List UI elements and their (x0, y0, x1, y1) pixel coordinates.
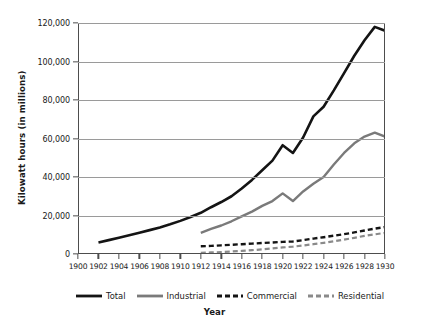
legend-item-residential[interactable]: Residential (308, 291, 384, 301)
y-axis-tick-mark (73, 99, 78, 100)
x-axis-tick-mark (159, 254, 160, 259)
x-axis-tick-label: 1928 (355, 262, 374, 271)
x-axis-tick-mark (221, 254, 222, 259)
y-axis-tick-label: 80,000 (20, 96, 70, 105)
x-axis-tick-label: 1914 (212, 262, 231, 271)
legend-label: Commercial (247, 291, 297, 301)
x-axis-tick-label: 1920 (273, 262, 292, 271)
x-axis-tick-label: 1922 (294, 262, 313, 271)
x-axis-tick-label: 1918 (253, 262, 272, 271)
x-axis-tick-mark (343, 254, 344, 259)
gridline (78, 62, 385, 63)
x-axis-tick-label: 1930 (376, 262, 395, 271)
x-axis-tick-mark (98, 254, 99, 259)
x-axis-tick-label: 1906 (130, 262, 149, 271)
x-axis-tick-mark (241, 254, 242, 259)
x-axis-tick-label: 1900 (69, 262, 88, 271)
gridline (78, 23, 385, 24)
x-axis-tick-label: 1902 (89, 262, 108, 271)
gridline (78, 139, 385, 140)
x-axis-tick-mark (118, 254, 119, 259)
y-axis-tick-mark (73, 176, 78, 177)
x-axis-tick-mark (282, 254, 283, 259)
x-axis-tick-label: 1912 (192, 262, 211, 271)
legend-label: Industrial (167, 291, 206, 301)
y-axis-tick-label: 100,000 (20, 57, 70, 66)
x-axis-tick-mark (323, 254, 324, 259)
x-axis-tick-label: 1924 (314, 262, 333, 271)
legend-label: Residential (338, 291, 384, 301)
x-axis-tick-mark (384, 254, 385, 259)
x-axis-tick-mark (262, 254, 263, 259)
x-axis-tick-mark (200, 254, 201, 259)
gridline (78, 177, 385, 178)
x-axis-title: Year (0, 307, 429, 317)
y-axis-tick-mark (73, 22, 78, 23)
legend-swatch-residential-icon (308, 291, 334, 301)
x-axis-tick-mark (364, 254, 365, 259)
gridline (78, 216, 385, 217)
x-axis-tick-label: 1916 (232, 262, 251, 271)
x-axis-tick-label: 1926 (335, 262, 354, 271)
legend-label: Total (106, 291, 126, 301)
x-axis-tick-label: 1910 (171, 262, 190, 271)
y-axis-tick-label: 0 (20, 250, 70, 259)
x-axis-tick-mark (180, 254, 181, 259)
x-axis-tick-label: 1904 (110, 262, 129, 271)
legend-swatch-industrial-icon (137, 291, 163, 301)
chart-legend: TotalIndustrialCommercialResidential (60, 288, 400, 304)
legend-swatch-commercial-icon (217, 291, 243, 301)
legend-swatch-total-icon (76, 291, 102, 301)
plot-area (78, 23, 385, 254)
gridline (78, 100, 385, 101)
x-axis-tick-mark (77, 254, 78, 259)
line-chart-figure: Kilowatt hours (in millions) 020,00040,0… (0, 0, 429, 333)
legend-item-total[interactable]: Total (76, 291, 126, 301)
y-axis-tick-mark (73, 61, 78, 62)
y-axis-tick-mark (73, 215, 78, 216)
legend-item-industrial[interactable]: Industrial (137, 291, 206, 301)
y-axis-tick-label: 60,000 (20, 134, 70, 143)
y-axis-tick-mark (73, 138, 78, 139)
y-axis-tick-label: 20,000 (20, 211, 70, 220)
y-axis-tick-label: 40,000 (20, 173, 70, 182)
x-axis-tick-label: 1908 (151, 262, 170, 271)
x-axis-tick-mark (139, 254, 140, 259)
legend-item-commercial[interactable]: Commercial (217, 291, 297, 301)
x-axis-tick-mark (302, 254, 303, 259)
y-axis-tick-label: 120,000 (20, 19, 70, 28)
